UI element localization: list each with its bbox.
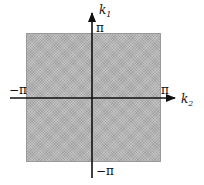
- vertical-axis-max-label: π: [96, 22, 104, 34]
- vertical-axis-min-label: −π: [96, 165, 114, 177]
- horizontal-axis-label: k2: [181, 93, 193, 108]
- horizontal-axis-min-label: −π: [9, 84, 27, 96]
- vertical-axis-label: k1: [99, 4, 111, 19]
- horizontal-axis-max-label: π: [161, 84, 169, 96]
- brillouin-zone-diagram: k1 π −π −π π k2: [0, 0, 204, 185]
